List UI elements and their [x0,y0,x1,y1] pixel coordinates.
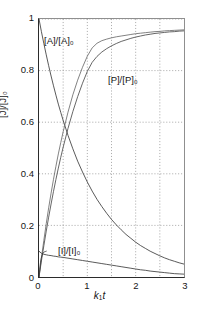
curve-annotation-p: [P]/[P]₀ [108,75,138,85]
chart-figure: [J]/[J]₀ 1 0.8 0.6 0.4 0.2 0 0 1 2 3 k1t… [0,0,199,311]
plot-area [38,18,185,278]
x-tick-label: 3 [177,281,193,291]
y-tick-label: 0.8 [6,65,34,75]
curve-annotation-a: [A]/[A]₀ [44,36,74,46]
x-axis-title: k1t [0,291,199,301]
curve-annotation-i: [I]/[I]₀ [58,246,80,256]
y-tick-label: 1 [6,13,34,23]
x-tick-label: 0 [30,281,46,291]
x-tick-label: 1 [79,281,95,291]
y-axis-title: [J]/[J]₀ [0,91,8,118]
y-tick-label: 0.4 [6,169,34,179]
curve-lines [39,19,184,277]
x-tick-label: 2 [128,281,144,291]
x-axis-title-variable: t [102,290,105,301]
y-tick-label: 0.2 [6,221,34,231]
y-tick-label: 0.6 [6,117,34,127]
